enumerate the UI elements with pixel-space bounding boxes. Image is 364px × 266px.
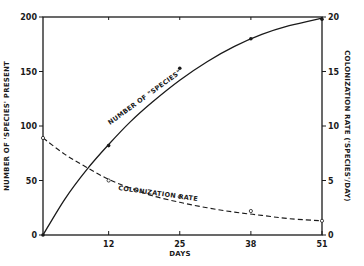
species-data-point — [249, 37, 253, 41]
right-tick-label: 15 — [328, 68, 340, 77]
right-tick-label: 5 — [328, 177, 334, 186]
x-tick-label: 12 — [103, 240, 114, 249]
colonization-rate-series — [41, 136, 323, 222]
right-y-axis: 05101520 — [322, 13, 340, 240]
plot-border — [43, 17, 322, 235]
species-count-series — [41, 17, 324, 236]
left-tick-label: 50 — [26, 177, 38, 186]
rate-data-point — [320, 219, 323, 222]
rate-curve-label: COLONIZATION RATE — [118, 184, 199, 203]
rate-data-point — [107, 179, 110, 182]
x-tick-label: 51 — [316, 240, 328, 249]
plot-frame — [43, 17, 322, 235]
right-y-axis-title: COLONIZATION RATE ('SPECIES'/DAY) — [343, 50, 351, 202]
rate-data-point — [41, 136, 44, 139]
species-curve-label: NUMBER OF "SPECIES" — [106, 68, 183, 127]
left-tick-label: 0 — [31, 231, 37, 240]
species-data-point — [320, 17, 324, 21]
right-tick-label: 20 — [328, 13, 340, 22]
x-tick-label: 38 — [245, 240, 257, 249]
left-tick-label: 100 — [20, 122, 37, 131]
x-tick-label: 25 — [174, 240, 186, 249]
species-data-point — [107, 144, 111, 148]
rate-data-point — [249, 209, 252, 212]
left-y-axis: 050100150200 — [20, 13, 43, 240]
left-y-axis-title: NUMBER OF 'SPECIES' PRESENT — [3, 61, 11, 191]
x-axis: 12253851 — [103, 17, 328, 249]
rate-curve-line — [43, 138, 322, 221]
chart: 050100150200 05101520 12253851 DAYS NUMB… — [0, 0, 364, 266]
right-tick-label: 0 — [328, 231, 334, 240]
right-tick-label: 10 — [328, 122, 340, 131]
left-tick-label: 200 — [20, 13, 37, 22]
left-tick-label: 150 — [20, 68, 37, 77]
x-axis-title: DAYS — [169, 250, 190, 258]
species-data-point — [41, 233, 45, 237]
